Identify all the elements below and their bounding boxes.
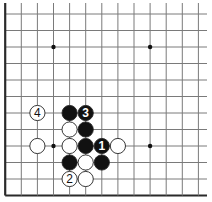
star-point-icon — [148, 144, 152, 148]
black-stone — [62, 155, 77, 170]
black-stone — [94, 155, 109, 170]
white-stone — [78, 171, 93, 186]
move-number-label: 3 — [82, 106, 89, 120]
white-stone-4: 4 — [30, 105, 45, 120]
move-number-label: 2 — [66, 172, 73, 186]
white-stone — [110, 138, 125, 153]
stones: 4312 — [30, 105, 126, 186]
white-stone — [78, 155, 93, 170]
star-point-icon — [51, 144, 55, 148]
go-board: 4312 — [0, 0, 212, 202]
white-stone — [30, 138, 45, 153]
white-stone — [62, 122, 77, 137]
black-stone-3: 3 — [78, 105, 93, 120]
move-number-label: 1 — [98, 139, 105, 153]
black-stone-1: 1 — [94, 138, 109, 153]
white-stone — [62, 138, 77, 153]
star-point-icon — [148, 45, 152, 49]
black-stone — [62, 105, 77, 120]
black-stone — [78, 138, 93, 153]
black-stone — [78, 122, 93, 137]
move-number-label: 4 — [34, 106, 41, 120]
star-point-icon — [51, 45, 55, 49]
white-stone-2: 2 — [62, 171, 77, 186]
